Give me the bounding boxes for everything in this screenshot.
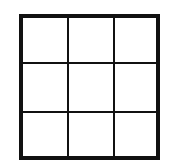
- grid-horizontal-line-1: [23, 62, 156, 64]
- grid-vertical-line-2: [113, 18, 115, 156]
- grid-vertical-line-1: [67, 18, 69, 156]
- grid-horizontal-line-2: [23, 111, 156, 113]
- tic-tac-toe-grid: [19, 14, 160, 160]
